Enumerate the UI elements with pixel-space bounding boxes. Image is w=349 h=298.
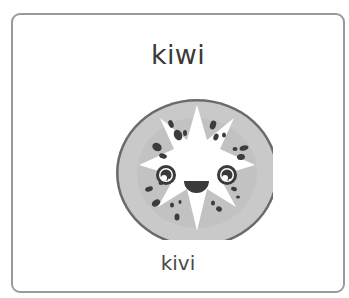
kiwi-left-eye (156, 165, 176, 185)
word-title: kiwi (13, 39, 343, 71)
kiwi-right-eye (217, 165, 237, 185)
word-translation: kivi (13, 250, 343, 276)
kiwi-icon (103, 85, 273, 240)
flashcard[interactable]: kiwi (11, 13, 345, 293)
